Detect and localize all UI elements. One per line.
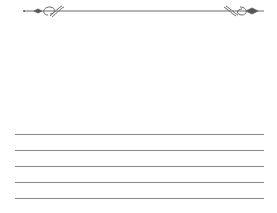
flourish-divider-icon bbox=[20, 2, 268, 20]
writing-line bbox=[15, 166, 264, 167]
writing-line bbox=[15, 134, 264, 135]
writing-line bbox=[15, 150, 264, 151]
writing-line bbox=[15, 182, 264, 183]
writing-line bbox=[15, 198, 264, 199]
flourish-divider bbox=[20, 2, 268, 20]
